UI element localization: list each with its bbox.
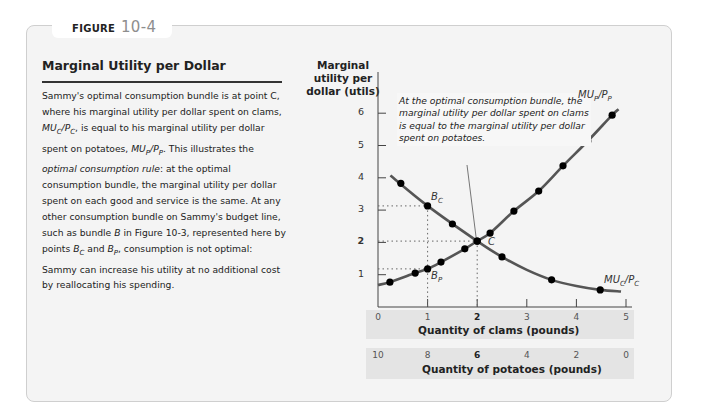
- point-mup: [386, 279, 393, 286]
- point-muc: [397, 180, 404, 187]
- point-muc: [597, 286, 604, 293]
- point-label-bc: BC: [431, 191, 443, 205]
- callout-pointer: [467, 165, 476, 238]
- point-mup: [474, 238, 481, 245]
- point-label-c: C: [488, 236, 495, 247]
- x-tick-label: 0: [375, 312, 381, 322]
- x2-tick-label: 0: [623, 350, 629, 360]
- point-muc: [449, 220, 456, 227]
- x-tick-label: 1: [425, 312, 431, 322]
- point-label-bp: BP: [431, 270, 442, 284]
- potatoes-axis-title: Quantity of potatoes (pounds): [422, 363, 602, 375]
- curve-muc: [390, 176, 621, 292]
- point-mup: [510, 207, 517, 214]
- curve-label-muc: MUC/PC: [604, 274, 639, 288]
- x-tick-label: 2: [474, 312, 480, 322]
- point-mup: [412, 269, 419, 276]
- x-tick-label: 5: [623, 312, 629, 322]
- x-tick-label: 3: [524, 312, 530, 322]
- x-tick-label: 4: [574, 312, 580, 322]
- callout-annotation: At the optimal consumption bundle, the m…: [397, 93, 591, 146]
- x2-tick-label: 4: [524, 350, 530, 360]
- clams-axis-title: Quantity of clams (pounds): [418, 324, 579, 336]
- curve-label-mup: MUP/PP: [578, 89, 612, 103]
- x2-tick-label: 10: [372, 350, 383, 360]
- point-mup: [609, 112, 616, 119]
- point-muc: [498, 253, 505, 260]
- point-mup: [437, 259, 444, 266]
- point-muc: [548, 276, 555, 283]
- point-mup: [559, 162, 566, 169]
- x2-tick-label: 6: [474, 350, 480, 360]
- x2-tick-label: 8: [425, 350, 431, 360]
- point-mup: [535, 187, 542, 194]
- potatoes-axis-strip: Quantity of potatoes (pounds) 1086420: [366, 348, 634, 379]
- point-mup: [461, 245, 468, 252]
- x2-tick-label: 2: [574, 350, 580, 360]
- clams-axis-strip: Quantity of clams (pounds) 012345: [366, 310, 634, 339]
